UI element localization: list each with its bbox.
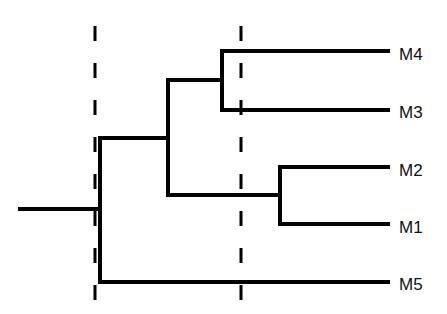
cluster-m4m3-branch — [222, 51, 388, 110]
tree-branches — [20, 51, 388, 282]
leaf-label-m4: M4 — [399, 46, 423, 63]
root-node-branch — [100, 138, 388, 282]
leaf-label-m2: M2 — [399, 162, 423, 179]
dendrogram-diagram: M4 M3 M2 M1 M5 — [0, 0, 447, 314]
leaf-label-m1: M1 — [399, 219, 423, 236]
dendrogram-svg — [0, 0, 447, 314]
cluster-m2m1-branch — [280, 167, 388, 224]
leaf-label-m3: M3 — [399, 104, 423, 121]
leaf-label-m5: M5 — [399, 276, 423, 293]
